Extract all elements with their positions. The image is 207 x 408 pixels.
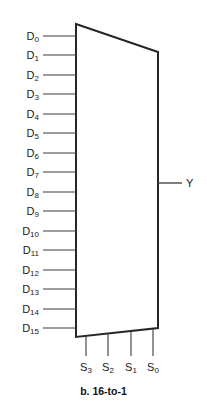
select-input-label-s0: S0 (147, 362, 159, 373)
select-input-label-s3: S3 (80, 362, 92, 373)
data-input-label-11: D11 (23, 245, 39, 256)
data-input-label-9: D9 (27, 206, 39, 217)
data-input-label-1: D1 (27, 50, 39, 61)
data-input-label-5: D5 (27, 128, 39, 139)
select-input-label-s2: S2 (102, 362, 114, 373)
data-input-label-10: D10 (22, 226, 39, 237)
data-input-label-8: D8 (27, 187, 39, 198)
data-input-label-4: D4 (27, 109, 39, 120)
data-input-label-2: D2 (27, 70, 39, 81)
data-input-label-0: D0 (27, 31, 39, 42)
mux-figure: D0 D1 D2 D3 D4 D5 D6 D7 D8 D9 D10 D11 D1… (0, 0, 207, 408)
data-input-label-6: D6 (27, 148, 39, 159)
data-input-label-3: D3 (27, 89, 39, 100)
select-input-label-s1: S1 (125, 362, 137, 373)
data-input-label-13: D13 (22, 284, 39, 295)
mux-body-shape (76, 24, 158, 337)
output-label-y: Y (186, 178, 193, 189)
data-input-label-14: D14 (22, 304, 39, 315)
data-input-label-15: D15 (22, 323, 39, 334)
data-input-label-12: D12 (22, 265, 39, 276)
data-input-label-7: D7 (27, 167, 39, 178)
figure-caption: b. 16-to-1 (0, 385, 207, 397)
data-input-wires-group (43, 36, 76, 328)
